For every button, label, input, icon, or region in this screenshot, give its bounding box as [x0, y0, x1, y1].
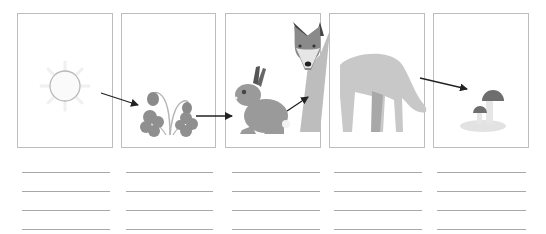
panel-sun: Sun	[17, 13, 113, 148]
panel-hare: Hare	[225, 13, 321, 148]
answer-line[interactable]	[334, 229, 422, 230]
answer-line[interactable]	[334, 172, 422, 173]
panel-wolf: Wolf	[329, 13, 425, 148]
answer-line[interactable]	[126, 210, 213, 211]
answer-line[interactable]	[232, 191, 320, 192]
answer-line[interactable]	[437, 210, 526, 211]
answer-line[interactable]	[22, 210, 110, 211]
panel-strawberry: Wild strawberry	[121, 13, 216, 148]
answer-line[interactable]	[232, 172, 320, 173]
answer-line[interactable]	[126, 191, 213, 192]
answer-line[interactable]	[437, 229, 526, 230]
answer-line[interactable]	[126, 229, 213, 230]
answer-line[interactable]	[334, 210, 422, 211]
answer-line[interactable]	[126, 172, 213, 173]
answer-line[interactable]	[437, 172, 526, 173]
answer-line[interactable]	[232, 229, 320, 230]
answer-line[interactable]	[22, 191, 110, 192]
answer-line[interactable]	[437, 191, 526, 192]
answer-line[interactable]	[22, 229, 110, 230]
answer-line[interactable]	[334, 191, 422, 192]
answer-line[interactable]	[232, 210, 320, 211]
answer-line[interactable]	[22, 172, 110, 173]
panel-mushrooms: Mushrooms	[433, 13, 529, 148]
